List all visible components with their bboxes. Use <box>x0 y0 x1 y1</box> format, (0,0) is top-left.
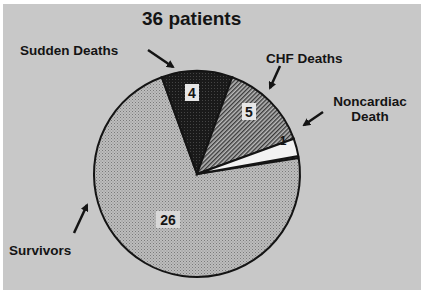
arrow-chf-deaths <box>270 66 280 88</box>
label-noncardiac-line2: Death <box>327 109 413 124</box>
label-sudden-deaths: Sudden Deaths <box>20 43 118 58</box>
value-sudden: 4 <box>188 85 196 101</box>
label-chf-deaths: CHF Deaths <box>266 51 343 66</box>
arrow-survivors <box>74 205 87 233</box>
arrow-noncardiac-death <box>304 112 323 125</box>
value-survivors: 26 <box>160 212 176 228</box>
arrow-sudden-deaths <box>148 50 173 67</box>
value-noncardiac: 1 <box>280 134 287 148</box>
label-noncardiac-death: Noncardiac Death <box>327 94 413 124</box>
label-noncardiac-line1: Noncardiac <box>327 94 413 109</box>
chart-title: 36 patients <box>142 8 241 30</box>
value-chf: 5 <box>245 104 253 120</box>
label-survivors: Survivors <box>9 243 71 258</box>
